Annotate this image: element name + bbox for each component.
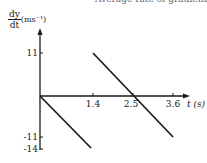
x-tick-label-3.6: 3.6 — [166, 99, 181, 109]
line-segment-2 — [93, 53, 173, 137]
y-tick-label-11: 11 — [27, 48, 38, 58]
x-axis-label: t (s) — [187, 99, 206, 109]
y-tick-label-neg14: -14 — [24, 144, 39, 154]
x-tick-label-1.4: 1.4 — [86, 99, 101, 109]
y-tick-label-neg11: -11 — [24, 132, 39, 142]
x-tick-label-2.5: 2.5 — [124, 99, 139, 109]
y-axis-arrow-icon — [38, 28, 43, 35]
line-segment-1 — [40, 96, 91, 148]
x-axis-arrow-icon — [183, 94, 190, 99]
chart-canvas: 11 -11 -14 1.4 2.5 3.6 t (s) — [0, 0, 207, 163]
